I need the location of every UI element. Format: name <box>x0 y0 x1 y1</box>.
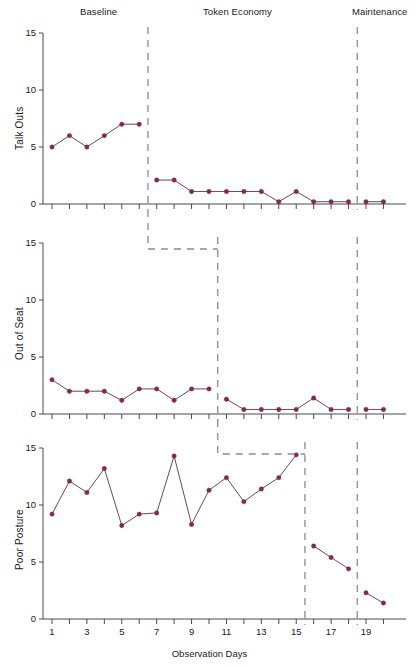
chart-figure: Baseline Token Economy Maintenance Talk … <box>0 0 419 668</box>
data-point <box>311 396 315 400</box>
y-tick-label: 5 <box>31 141 36 152</box>
data-point <box>224 475 228 479</box>
data-point <box>259 407 263 411</box>
data-point <box>277 475 281 479</box>
y-tick-label: 5 <box>31 556 36 567</box>
y-tick-label: 10 <box>25 499 36 510</box>
series-line-baseline <box>52 124 139 147</box>
data-point <box>85 490 89 494</box>
data-point <box>207 189 211 193</box>
data-point <box>242 499 246 503</box>
data-point <box>137 512 141 516</box>
data-point <box>50 512 54 516</box>
series-line-token-economy <box>157 180 349 202</box>
data-point <box>294 189 298 193</box>
data-point <box>277 407 281 411</box>
data-point <box>189 387 193 391</box>
data-point <box>154 387 158 391</box>
phase-connector <box>218 420 305 454</box>
data-point <box>294 453 298 457</box>
data-point <box>381 601 385 605</box>
data-point <box>67 133 71 137</box>
y-tick-label: 10 <box>25 84 36 95</box>
data-point <box>189 189 193 193</box>
data-point <box>172 398 176 402</box>
data-point <box>329 200 333 204</box>
phase-connector <box>148 210 218 249</box>
x-tick-label: 13 <box>256 626 267 637</box>
x-tick-label: 19 <box>361 626 372 637</box>
data-point <box>346 200 350 204</box>
data-point <box>85 389 89 393</box>
series-line-maintenance <box>366 593 383 603</box>
y-tick-label: 0 <box>31 408 36 419</box>
data-point <box>346 567 350 571</box>
series-line-baseline <box>52 380 209 401</box>
y-tick-label: 10 <box>25 294 36 305</box>
x-tick-label: 17 <box>326 626 337 637</box>
data-point <box>102 466 106 470</box>
y-tick-label: 15 <box>25 237 36 248</box>
data-point <box>381 407 385 411</box>
data-point <box>242 407 246 411</box>
data-point <box>120 523 124 527</box>
data-point <box>85 145 89 149</box>
data-point <box>154 511 158 515</box>
x-tick-label: 3 <box>84 626 89 637</box>
data-point <box>189 522 193 526</box>
data-point <box>364 407 368 411</box>
x-tick-label: 5 <box>119 626 124 637</box>
x-tick-label: 1 <box>49 626 54 637</box>
data-point <box>102 133 106 137</box>
data-point <box>311 200 315 204</box>
data-point <box>50 378 54 382</box>
x-tick-label: 9 <box>189 626 194 637</box>
y-tick-label: 0 <box>31 613 36 624</box>
data-point <box>67 479 71 483</box>
y-tick-label: 15 <box>25 442 36 453</box>
data-point <box>277 200 281 204</box>
y-tick-label: 0 <box>31 198 36 209</box>
data-point <box>207 387 211 391</box>
data-point <box>172 178 176 182</box>
data-point <box>294 407 298 411</box>
data-point <box>242 189 246 193</box>
data-point <box>67 389 71 393</box>
panel-1: 051015 <box>25 237 406 420</box>
data-point <box>329 555 333 559</box>
data-point <box>259 189 263 193</box>
data-point <box>137 122 141 126</box>
y-tick-label: 5 <box>31 351 36 362</box>
data-point <box>50 145 54 149</box>
data-point <box>120 122 124 126</box>
data-point <box>311 544 315 548</box>
y-tick-label: 15 <box>25 27 36 38</box>
data-point <box>364 591 368 595</box>
data-point <box>224 397 228 401</box>
data-point <box>259 487 263 491</box>
x-tick-label: 11 <box>222 626 232 637</box>
data-point <box>137 387 141 391</box>
data-point <box>364 200 368 204</box>
x-tick-label: 15 <box>291 626 302 637</box>
data-point <box>224 189 228 193</box>
data-point <box>120 398 124 402</box>
x-tick-label: 7 <box>154 626 159 637</box>
data-point <box>102 389 106 393</box>
data-point <box>154 178 158 182</box>
data-point <box>207 488 211 492</box>
panel-0: 051015 <box>25 27 406 210</box>
data-point <box>172 454 176 458</box>
data-point <box>346 407 350 411</box>
data-point <box>329 407 333 411</box>
plot-canvas: 051015051015051015135791113151719 <box>0 0 419 668</box>
panel-2: 051015135791113151719 <box>25 442 406 637</box>
data-point <box>381 200 385 204</box>
